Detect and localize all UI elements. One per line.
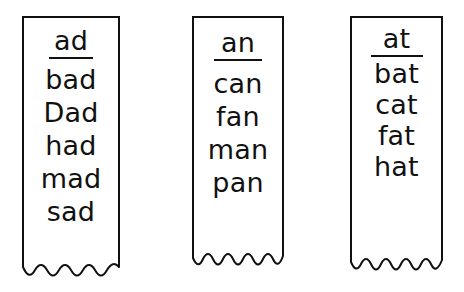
- torn-edge-at: [350, 256, 443, 278]
- torn-edge-ad: [22, 261, 120, 283]
- torn-edge-an: [192, 251, 284, 273]
- word-family-chart: ad bad Dad had mad sad an can fan: [0, 0, 464, 292]
- strip-body-an: [192, 16, 284, 251]
- strip-body-ad: [22, 16, 120, 261]
- strip-body-at: [350, 16, 443, 256]
